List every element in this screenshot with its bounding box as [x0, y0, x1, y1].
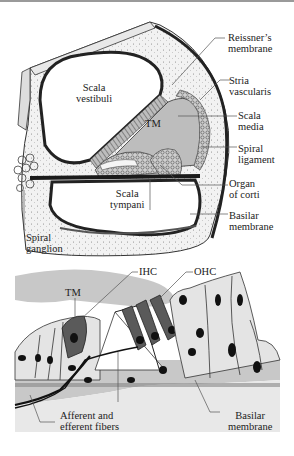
label-organ-of-corti: Organ of corti [229, 178, 260, 200]
label-spiral-ganglion: Spiral ganglion [26, 232, 63, 254]
label-line: Reissner’s [228, 32, 272, 43]
label-line: tympani [110, 199, 144, 210]
label-line: efferent fibers [60, 421, 119, 432]
label-line: vestibuli [76, 93, 112, 104]
label-line: Scala [76, 82, 112, 93]
label-line: ganglion [26, 243, 63, 254]
label-stria-vascularis: Stria vascularis [229, 75, 271, 97]
label-line: Organ [229, 178, 260, 189]
label-ohc: OHC [194, 266, 216, 277]
label-afferent-efferent-fibers: Afferent and efferent fibers [60, 410, 119, 432]
label-scala-tympani: Scala tympani [110, 188, 144, 210]
label-basilar-membrane-top: Basilar membrane [229, 210, 273, 232]
label-scala-vestibuli: Scala vestibuli [76, 82, 112, 104]
cochlea-cross-section [14, 22, 229, 256]
label-line: Basilar [229, 210, 273, 221]
label-line: Basilar [228, 410, 272, 421]
label-line: Stria [229, 75, 271, 86]
label-basilar-membrane-bottom: Basilar membrane [228, 410, 272, 432]
label-line: membrane [229, 221, 273, 232]
label-spiral-ligament: Spiral ligament [238, 143, 275, 165]
organ-of-corti-detail [15, 269, 280, 432]
label-line: Spiral [26, 232, 63, 243]
label-tm-bottom: TM [65, 287, 81, 298]
label-reissners-membrane: Reissner’s membrane [228, 32, 272, 54]
label-tm-top: TM [145, 118, 161, 129]
label-scala-media: Scala media [238, 110, 264, 132]
label-line: vascularis [229, 86, 271, 97]
label-line: media [238, 121, 264, 132]
label-line: membrane [228, 421, 272, 432]
label-line: of corti [229, 189, 260, 200]
label-line: membrane [228, 43, 272, 54]
label-ihc: IHC [139, 266, 157, 277]
label-line: ligament [238, 154, 275, 165]
label-line: Scala [110, 188, 144, 199]
label-line: Afferent and [60, 410, 119, 421]
label-line: Spiral [238, 143, 275, 154]
label-line: Scala [238, 110, 264, 121]
